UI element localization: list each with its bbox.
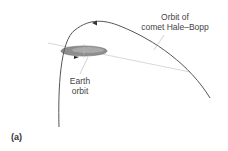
- comet-label-line1: Orbit of: [132, 12, 218, 22]
- earth-label-line2: orbit: [62, 86, 98, 96]
- earth-label-line1: Earth: [62, 76, 98, 86]
- comet-orbit-label: Orbit of comet Hale–Bopp: [132, 12, 218, 32]
- panel-label: (a): [11, 132, 22, 142]
- comet-orbit-curve: [59, 21, 210, 127]
- comet-label-line2: comet Hale–Bopp: [132, 22, 218, 32]
- earth-label-leader: [80, 57, 88, 74]
- earth-orbit-highlight: [72, 47, 104, 53]
- earth-orbit-label: Earth orbit: [62, 76, 98, 96]
- comet-label-leader: [154, 35, 164, 50]
- earth-direction-arrow-icon: [74, 56, 79, 59]
